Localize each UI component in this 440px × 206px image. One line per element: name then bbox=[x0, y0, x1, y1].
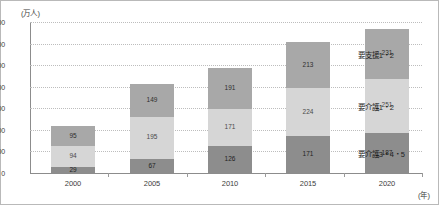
y-axis-tick-label: 300 bbox=[0, 105, 5, 112]
bar-value-label: 171 bbox=[303, 151, 314, 158]
x-axis-tick-mark bbox=[344, 173, 345, 177]
y-axis-tick-label: 0 bbox=[0, 170, 5, 177]
legend-label: 要支援1・2 bbox=[358, 49, 394, 60]
bar-segment: 191 bbox=[208, 68, 252, 109]
bar-value-label: 94 bbox=[69, 153, 76, 160]
x-axis-tick-label: 2005 bbox=[130, 179, 174, 188]
bar-value-label: 126 bbox=[225, 156, 236, 163]
x-axis-tick-label: 2015 bbox=[286, 179, 330, 188]
x-axis-line bbox=[30, 173, 422, 174]
x-axis-tick-label: 2010 bbox=[208, 179, 252, 188]
gridline bbox=[30, 44, 422, 45]
legend-label: 要介護1・2 bbox=[358, 101, 394, 112]
bar-segment: 95 bbox=[51, 126, 95, 146]
gridline bbox=[30, 65, 422, 66]
bar-group: 299495 bbox=[51, 126, 95, 173]
bar-value-label: 213 bbox=[303, 62, 314, 69]
bar-segment: 213 bbox=[286, 42, 330, 88]
bar-value-label: 29 bbox=[69, 167, 76, 174]
y-axis-tick-label: 400 bbox=[0, 83, 5, 90]
gridline bbox=[30, 22, 422, 23]
y-axis-tick-label: 700 bbox=[0, 19, 5, 26]
bar-segment: 224 bbox=[286, 88, 330, 136]
y-axis-tick-label: 600 bbox=[0, 40, 5, 47]
bar-group: 67195149 bbox=[130, 84, 174, 173]
bar-segment: 171 bbox=[208, 109, 252, 146]
x-axis-unit-label: (年) bbox=[418, 189, 430, 200]
x-axis-tick-label: 2020 bbox=[365, 179, 409, 188]
bar-value-label: 191 bbox=[225, 85, 236, 92]
x-axis-tick-mark bbox=[187, 173, 188, 177]
legend-label: 要介護3・4・5 bbox=[358, 148, 405, 159]
y-axis-tick-label: 500 bbox=[0, 62, 5, 69]
bar-segment: 171 bbox=[286, 136, 330, 173]
bar-value-label: 171 bbox=[225, 124, 236, 131]
bar-segment: 94 bbox=[51, 146, 95, 166]
bar-group: 171224213 bbox=[286, 42, 330, 173]
bar-value-label: 224 bbox=[303, 109, 314, 116]
bar-segment: 67 bbox=[130, 159, 174, 173]
bar-segment: 149 bbox=[130, 84, 174, 116]
y-axis-tick-label: 200 bbox=[0, 126, 5, 133]
bar-value-label: 149 bbox=[147, 97, 158, 104]
bar-value-label: 67 bbox=[148, 163, 155, 170]
x-axis-tick-mark bbox=[422, 173, 423, 177]
y-axis-tick-label: 100 bbox=[0, 148, 5, 155]
x-axis-tick-mark bbox=[265, 173, 266, 177]
bar-segment: 126 bbox=[208, 146, 252, 173]
bar-segment: 195 bbox=[130, 117, 174, 159]
chart-container: (万人) (年) 0100200300400500600700 29949567… bbox=[0, 0, 439, 205]
bar-value-label: 95 bbox=[69, 133, 76, 140]
bar-group: 126171191 bbox=[208, 68, 252, 173]
x-axis-tick-mark bbox=[108, 173, 109, 177]
bar-segment: 29 bbox=[51, 167, 95, 173]
y-axis-unit-label: (万人) bbox=[21, 7, 40, 18]
x-axis-tick-label: 2000 bbox=[51, 179, 95, 188]
bar-value-label: 195 bbox=[147, 134, 158, 141]
